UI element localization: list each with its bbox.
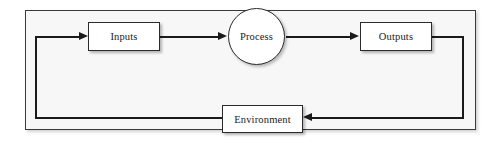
node-environment-label: Environment: [234, 114, 290, 125]
node-process: Process: [228, 8, 285, 65]
connector-environment-to-loop: [35, 117, 223, 119]
connector-loop-to-environment: [312, 117, 464, 119]
connector-outputs-to-loop: [432, 36, 464, 38]
node-process-label: Process: [240, 31, 273, 42]
system-diagram: Inputs Process Outputs Environment: [0, 0, 503, 147]
arrowhead-into-environment-icon: [303, 113, 312, 121]
connector-feedback-to-inputs: [35, 36, 80, 38]
node-inputs: Inputs: [88, 22, 160, 51]
arrowhead-into-inputs-icon: [79, 32, 88, 40]
connector-inputs-to-process: [160, 36, 219, 38]
node-inputs-label: Inputs: [110, 31, 137, 42]
node-outputs-label: Outputs: [379, 31, 413, 42]
connector-loop-left-segment: [35, 36, 37, 119]
arrowhead-into-process-icon: [218, 32, 227, 40]
arrowhead-into-outputs-icon: [350, 32, 359, 40]
connector-loop-right-segment: [462, 36, 464, 118]
node-outputs: Outputs: [360, 22, 432, 51]
node-environment: Environment: [222, 105, 303, 133]
connector-process-to-outputs: [286, 36, 350, 38]
